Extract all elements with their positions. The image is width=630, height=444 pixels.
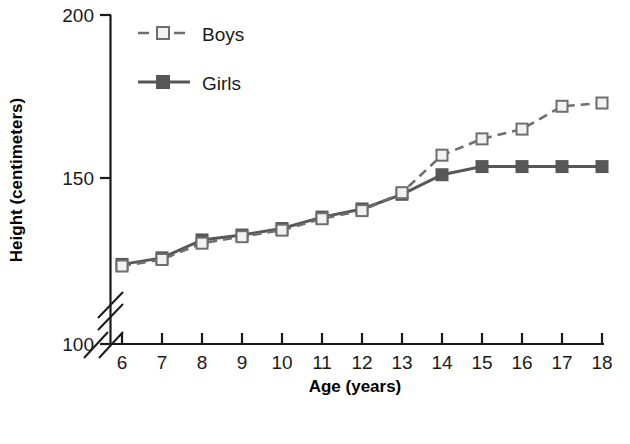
x-tick-label-9: 9 bbox=[237, 352, 248, 373]
x-axis-title: Age (years) bbox=[309, 377, 402, 396]
x-tick-label-6: 6 bbox=[117, 352, 128, 373]
data-point-girls-age-16 bbox=[517, 161, 528, 172]
x-tick-label-10: 10 bbox=[271, 352, 292, 373]
x-tick-label-13: 13 bbox=[391, 352, 412, 373]
x-tick-label-16: 16 bbox=[511, 352, 532, 373]
data-point-boys-age-11 bbox=[317, 213, 328, 224]
data-point-boys-age-6 bbox=[117, 261, 128, 272]
data-point-boys-age-12 bbox=[357, 205, 368, 216]
x-tick-label-11: 11 bbox=[312, 352, 332, 373]
growth-chart: 100150200 6789101112131415161718 Boys Gi… bbox=[0, 0, 630, 444]
x-tick-label-14: 14 bbox=[431, 352, 453, 373]
data-point-boys-age-9 bbox=[237, 231, 248, 242]
y-tick-label-150: 150 bbox=[62, 168, 94, 189]
data-point-girls-age-18 bbox=[597, 161, 608, 172]
y-axis-title: Height (centimeters) bbox=[7, 98, 26, 262]
data-point-boys-age-7 bbox=[157, 254, 168, 265]
x-tick-label-7: 7 bbox=[157, 352, 168, 373]
data-point-girls-age-17 bbox=[557, 161, 568, 172]
data-point-boys-age-18 bbox=[597, 98, 608, 109]
x-tick-label-17: 17 bbox=[551, 352, 572, 373]
data-point-boys-age-13 bbox=[397, 187, 408, 198]
chart-canvas: 100150200 6789101112131415161718 Boys Gi… bbox=[0, 0, 630, 444]
y-tick-label-100: 100 bbox=[62, 334, 94, 355]
data-point-boys-age-10 bbox=[277, 225, 288, 236]
data-point-boys-age-15 bbox=[477, 133, 488, 144]
legend-label-girls: Girls bbox=[202, 73, 241, 94]
data-point-boys-age-17 bbox=[557, 101, 568, 112]
legend-label-boys: Boys bbox=[202, 24, 244, 45]
data-point-boys-age-16 bbox=[517, 124, 528, 135]
data-point-boys-age-14 bbox=[437, 150, 448, 161]
x-tick-label-8: 8 bbox=[197, 352, 208, 373]
legend-marker-boys bbox=[157, 27, 169, 39]
x-tick-label-15: 15 bbox=[471, 352, 492, 373]
x-tick-label-12: 12 bbox=[351, 352, 372, 373]
y-tick-label-200: 200 bbox=[62, 5, 94, 26]
x-tick-label-18: 18 bbox=[591, 352, 612, 373]
data-point-girls-age-14 bbox=[437, 169, 448, 180]
data-point-girls-age-15 bbox=[477, 161, 488, 172]
legend-marker-girls bbox=[157, 76, 169, 88]
data-point-boys-age-8 bbox=[197, 238, 208, 249]
